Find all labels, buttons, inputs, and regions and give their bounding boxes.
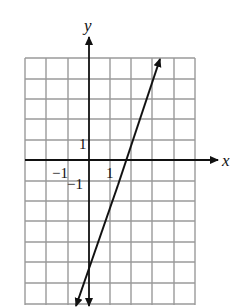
x-tick-neg1-label: −1	[52, 165, 68, 181]
x-tick-1-label: 1	[106, 165, 114, 181]
x-axis-label: x	[221, 151, 230, 170]
coordinate-plane: x y −1 1 1 −1	[0, 0, 246, 307]
plotted-line-lower	[76, 185, 118, 306]
plotted-line	[118, 59, 160, 185]
y-axis-label: y	[82, 16, 92, 35]
grid	[25, 58, 195, 305]
y-tick-neg1-label: −1	[67, 176, 83, 192]
y-tick-1-label: 1	[79, 136, 87, 152]
